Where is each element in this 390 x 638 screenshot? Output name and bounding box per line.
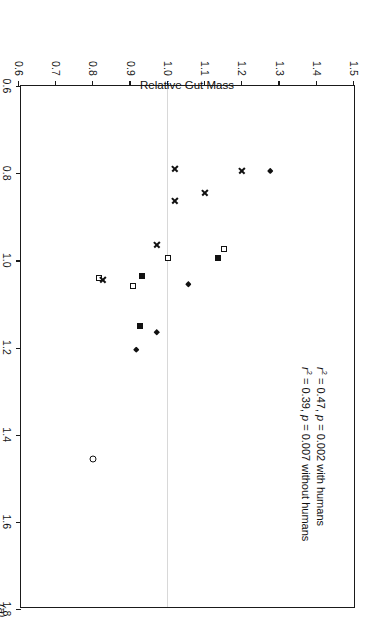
data-point-cross [99,276,107,284]
x-axis-tick [16,522,21,523]
x-axis-tick-label: 0.8 [1,166,13,181]
x-axis-tick-label: 0.6 [1,79,13,94]
y-axis-tick-label: 0.6 [13,61,25,76]
data-point-cross [201,189,209,197]
gridline-y [167,86,168,607]
y-axis-tick [316,81,317,86]
y-axis-tick-label: 1.5 [348,61,360,76]
x-axis-tick-label: 1.2 [1,340,13,355]
x-axis-tick-label: 1.4 [1,427,13,442]
data-point-filled-square [137,323,143,329]
data-point-cross [171,197,179,205]
rotated-figure-wrapper: 0.60.81.01.21.41.61.80.60.70.80.91.01.11… [0,0,390,638]
scatter-chart: 0.60.81.01.21.41.61.80.60.70.80.91.01.11… [0,0,390,638]
x-axis-tick-label: 1.6 [1,514,13,529]
x-axis-tick [16,348,21,349]
y-axis-tick-label: 0.9 [125,61,137,76]
x-axis-tick [16,86,21,87]
y-axis-tick-label: 1.3 [274,61,286,76]
x-axis-tick-label: 1.0 [1,253,13,268]
x-axis-tick [16,609,21,610]
y-axis-tick-label: 1.2 [236,61,248,76]
y-axis-tick-label: 1.4 [311,61,323,76]
y-axis-tick [353,81,354,86]
data-point-cross [171,165,179,173]
y-axis-tick-label: 0.7 [50,61,62,76]
x-axis-tick [16,173,21,174]
y-axis-tick [129,81,130,86]
data-point-filled-diamond [267,168,273,174]
data-point-filled-square [139,273,145,279]
data-point-open-square [221,246,227,252]
data-point-filled-diamond [133,346,139,352]
data-point-cross [153,241,161,249]
data-point-open-square [165,255,171,261]
x-axis-tick [16,435,21,436]
y-axis-tick [92,81,93,86]
data-point-filled-diamond [185,281,191,287]
data-point-open-square [130,283,136,289]
y-axis-title: Relative Gut Mass [141,79,235,91]
y-axis-tick-label: 1.1 [199,61,211,76]
x-axis-tick [16,260,21,261]
data-point-open-circle [90,455,97,462]
data-point-filled-square [215,255,221,261]
y-axis-tick [278,81,279,86]
y-axis-tick [18,81,19,86]
y-axis-tick [241,81,242,86]
data-point-cross [238,167,246,175]
figure-panel: 0.60.81.01.21.41.61.80.60.70.80.91.01.11… [0,0,390,638]
y-axis-tick-label: 0.8 [87,61,99,76]
data-point-filled-diamond [154,329,160,335]
y-axis-tick [55,81,56,86]
statistics-annotation: r2 = 0.39, p = 0.007 without humans [300,367,314,541]
panel-label: (a) [0,604,8,617]
statistics-annotation: r2 = 0.47, p = 0.002 with humans [315,367,329,526]
plot-frame: 0.60.81.01.21.41.61.80.60.70.80.91.01.11… [20,85,355,608]
y-axis-tick-label: 1.0 [162,61,174,76]
